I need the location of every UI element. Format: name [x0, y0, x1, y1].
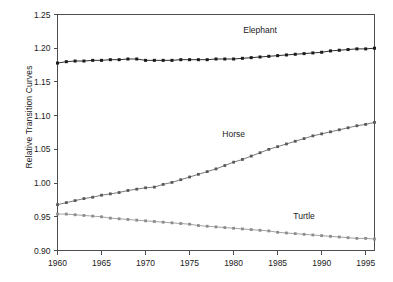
x-tick-label: 1965: [92, 258, 111, 268]
data-point-marker: [144, 219, 147, 222]
y-tick-label: 1.15: [34, 77, 51, 87]
data-point-marker: [91, 196, 94, 199]
data-point-marker: [364, 123, 367, 126]
data-point-marker: [329, 130, 332, 133]
data-point-marker: [338, 128, 341, 131]
data-point-marker: [294, 53, 297, 56]
data-point-marker: [338, 49, 341, 52]
y-tick-label: 1.25: [34, 10, 51, 20]
data-point-marker: [329, 49, 332, 52]
data-point-marker: [267, 55, 270, 58]
data-point-marker: [250, 56, 253, 59]
data-point-marker: [294, 140, 297, 143]
data-point-marker: [241, 228, 244, 231]
data-point-marker: [109, 217, 112, 220]
y-tick-label: 1.10: [34, 111, 51, 121]
data-point-marker: [197, 58, 200, 61]
series-label-turtle: Turtle: [293, 211, 315, 221]
data-point-marker: [241, 57, 244, 60]
data-point-marker: [126, 58, 129, 61]
data-point-marker: [206, 58, 209, 61]
data-point-marker: [135, 58, 138, 61]
data-point-marker: [259, 229, 262, 232]
data-point-marker: [320, 234, 323, 237]
series-label-horse: Horse: [222, 129, 245, 139]
data-point-marker: [347, 48, 350, 51]
series-horse: [56, 121, 376, 206]
data-point-marker: [320, 132, 323, 135]
data-point-marker: [285, 143, 288, 146]
data-point-marker: [100, 194, 103, 197]
data-point-marker: [197, 224, 200, 227]
data-point-marker: [311, 234, 314, 237]
data-point-marker: [215, 168, 218, 171]
data-point-marker: [188, 223, 191, 226]
x-tick-label: 1975: [180, 258, 199, 268]
data-point-marker: [320, 51, 323, 54]
x-tick-label: 1990: [312, 258, 331, 268]
data-point-marker: [100, 215, 103, 218]
data-point-marker: [241, 158, 244, 161]
y-tick-label: 0.95: [34, 212, 51, 222]
data-point-marker: [338, 236, 341, 239]
data-point-marker: [329, 235, 332, 238]
chart-figure: Relative Transition Curves 0.900.951.001…: [0, 0, 393, 282]
y-tick-label: 0.90: [34, 246, 51, 256]
data-point-marker: [170, 59, 173, 62]
data-point-marker: [118, 58, 121, 61]
data-point-marker: [250, 155, 253, 158]
data-point-marker: [162, 59, 165, 62]
data-point-marker: [206, 170, 209, 173]
data-point-marker: [373, 121, 376, 124]
data-point-marker: [74, 213, 77, 216]
data-point-marker: [355, 237, 358, 240]
data-point-marker: [347, 126, 350, 129]
data-point-marker: [109, 192, 112, 195]
data-point-marker: [153, 59, 156, 62]
y-tick-label: 1.20: [34, 43, 51, 53]
data-point-marker: [65, 213, 68, 216]
data-point-marker: [276, 145, 279, 148]
x-tick-label: 1980: [224, 258, 243, 268]
data-point-marker: [215, 226, 218, 229]
y-tick-label: 1.05: [34, 144, 51, 154]
data-point-marker: [179, 58, 182, 61]
series-elephant: [56, 47, 376, 65]
data-point-marker: [65, 60, 68, 63]
data-point-marker: [83, 214, 86, 217]
x-tick-label: 1985: [268, 258, 287, 268]
data-point-marker: [197, 173, 200, 176]
data-point-marker: [56, 213, 59, 216]
data-point-marker: [100, 59, 103, 62]
data-point-marker: [83, 197, 86, 200]
data-point-marker: [56, 62, 59, 65]
data-point-marker: [311, 51, 314, 54]
data-point-marker: [171, 181, 174, 184]
data-point-marker: [215, 58, 218, 61]
y-axis-tick-labels: 0.900.951.001.051.101.151.201.25: [34, 10, 51, 256]
data-point-marker: [127, 218, 130, 221]
series-turtle: [56, 213, 376, 241]
data-point-marker: [276, 54, 279, 57]
data-series-group: [56, 47, 376, 241]
data-point-marker: [303, 52, 306, 55]
data-point-marker: [82, 60, 85, 63]
data-point-marker: [74, 60, 77, 63]
data-point-marker: [118, 191, 121, 194]
data-point-marker: [347, 236, 350, 239]
data-point-marker: [223, 164, 226, 167]
data-point-marker: [171, 221, 174, 224]
data-point-marker: [364, 47, 367, 50]
data-point-marker: [303, 233, 306, 236]
data-point-marker: [144, 59, 147, 62]
data-point-marker: [373, 238, 376, 241]
data-point-marker: [206, 225, 209, 228]
data-point-marker: [223, 58, 226, 61]
data-point-marker: [364, 237, 367, 240]
data-point-marker: [311, 134, 314, 137]
data-point-marker: [153, 186, 156, 189]
data-point-marker: [355, 47, 358, 50]
data-point-marker: [74, 199, 77, 202]
data-point-marker: [276, 231, 279, 234]
series-label-elephant: Elephant: [243, 25, 277, 35]
